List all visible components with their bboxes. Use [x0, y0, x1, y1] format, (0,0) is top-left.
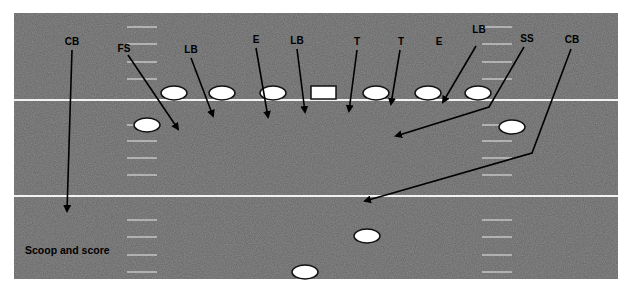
offensive-player: [134, 118, 160, 132]
offensive-player: [363, 86, 389, 100]
offensive-player: [209, 86, 235, 100]
offensive-player: [354, 229, 380, 243]
offensive-player: [161, 86, 187, 100]
defender-e: E: [436, 36, 443, 47]
defender-label: FS: [118, 43, 131, 54]
center-player: [311, 86, 336, 99]
field-surface: [14, 13, 618, 279]
defender-label: CB: [65, 36, 79, 47]
play-diagram: CBFSLBELBTTELBSSCB Scoop and score: [0, 0, 632, 299]
defender-label: T: [354, 36, 360, 47]
defender-label: SS: [520, 33, 534, 44]
offensive-player: [292, 265, 318, 279]
defender-label: CB: [565, 34, 579, 45]
offensive-player: [465, 86, 491, 100]
scoop-and-score-label: Scoop and score: [25, 244, 110, 256]
defender-label: E: [436, 36, 443, 47]
offensive-player: [499, 120, 525, 134]
defender-label: LB: [184, 44, 197, 55]
defender-label: E: [253, 34, 260, 45]
defender-label: LB: [290, 35, 303, 46]
defender-label: T: [398, 36, 404, 47]
defender-label: LB: [472, 24, 485, 35]
football-field: CBFSLBELBTTELBSSCB Scoop and score: [0, 0, 632, 299]
field-texture: [14, 13, 618, 279]
annotation: Scoop and score: [25, 244, 110, 256]
offensive-player: [415, 86, 441, 100]
